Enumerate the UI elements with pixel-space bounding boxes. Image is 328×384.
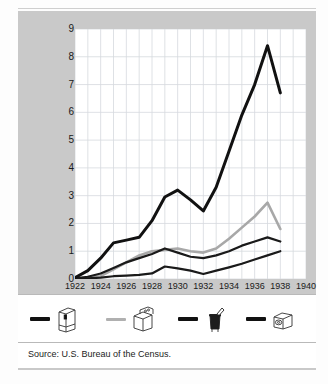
plot-area [75, 29, 306, 279]
x-tick-1934: 1934 [219, 281, 239, 291]
source-note: Source: U.S. Bureau of the Census. [28, 349, 171, 359]
y-tick-7: 7 [68, 80, 74, 90]
y-tick-9: 9 [68, 24, 74, 34]
x-tick-1924: 1924 [91, 281, 111, 291]
washing-machine-icon [202, 305, 228, 333]
figure-root: Appliances produced (in millions) 012345… [0, 0, 328, 384]
legend-item-washing-machine[interactable] [178, 303, 228, 335]
y-tick-4: 4 [68, 163, 74, 173]
legend-swatch [106, 318, 126, 321]
vacuum-icon [270, 305, 296, 333]
refrigerator-icon [54, 305, 80, 333]
y-axis-tick-labels: 0123456789 [54, 23, 74, 285]
legend-swatch [246, 317, 266, 321]
gridlines [75, 29, 306, 279]
y-tick-8: 8 [68, 52, 74, 62]
stove-icon [130, 305, 156, 333]
plot-svg [75, 29, 306, 279]
x-tick-1932: 1932 [193, 281, 213, 291]
bottom-divider [18, 368, 316, 370]
legend-plate [18, 294, 316, 343]
y-tick-5: 5 [68, 135, 74, 145]
y-tick-2: 2 [68, 218, 74, 228]
legend-item-stove[interactable] [106, 303, 156, 335]
legend [18, 295, 316, 343]
x-tick-1930: 1930 [168, 281, 188, 291]
x-tick-1928: 1928 [142, 281, 162, 291]
y-tick-6: 6 [68, 107, 74, 117]
legend-item-vacuum[interactable] [246, 303, 296, 335]
x-tick-1938: 1938 [270, 281, 290, 291]
x-tick-1926: 1926 [116, 281, 136, 291]
y-tick-3: 3 [68, 191, 74, 201]
x-tick-1940: 1940 [296, 281, 316, 291]
x-tick-1922: 1922 [65, 281, 85, 291]
legend-swatch [178, 317, 198, 321]
legend-item-refrigerator[interactable] [30, 303, 80, 335]
y-tick-1: 1 [68, 246, 74, 256]
top-divider [18, 8, 316, 9]
chart-plate: Appliances produced (in millions) 012345… [18, 11, 316, 294]
source-plate: Source: U.S. Bureau of the Census. [18, 342, 316, 369]
x-tick-1936: 1936 [245, 281, 265, 291]
legend-swatch [30, 317, 50, 321]
